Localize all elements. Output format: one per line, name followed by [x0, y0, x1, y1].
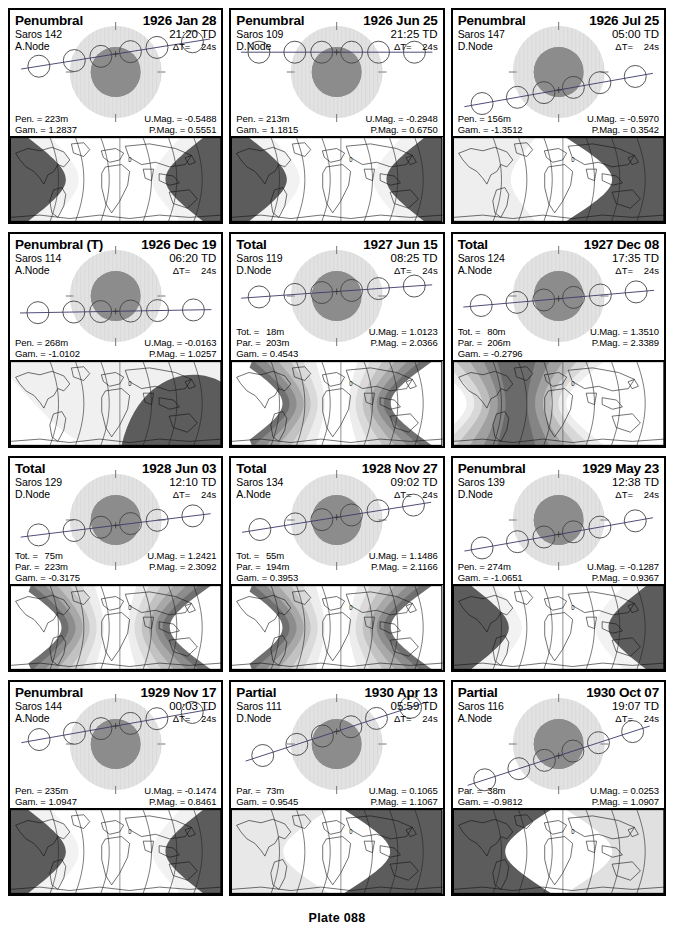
umbral-magnitude: 1.2421: [188, 550, 216, 561]
eclipse-statistics: Pen. = 268mGam. = -1.0102U.Mag. = -0.016…: [10, 337, 221, 359]
penumbral-duration-row: Pen. = 274m: [458, 561, 523, 572]
eclipse-panel[interactable]: TotalSaros 134A.Node1928 Nov 2709:02 TDΔ…: [229, 456, 444, 672]
eclipse-date: 1928 Jun 03: [142, 462, 216, 476]
eclipse-panel[interactable]: PenumbralSaros 147D.Node1926 Jul 2505:00…: [451, 8, 666, 224]
duration-stats: Pen. = 274mGam. = -1.0651: [458, 561, 523, 583]
gam-label: Gam. =: [458, 348, 489, 359]
umbral-magnitude-row: U.Mag. = -0.1474: [144, 785, 216, 796]
eclipse-statistics: Pen. = 235mGam. = 1.0947U.Mag. = -0.1474…: [10, 785, 221, 807]
eclipse-date: 1926 Dec 19: [141, 238, 216, 252]
eclipse-panel[interactable]: TotalSaros 124A.Node1927 Dec 0817:35 TDΔ…: [451, 232, 666, 448]
eclipse-diagram-area: TotalSaros 129D.Node1928 Jun 0312:10 TDΔ…: [10, 458, 221, 584]
eclipse-panel[interactable]: PenumbralSaros 139D.Node1929 May 2312:38…: [451, 456, 666, 672]
gamma-value-row: Gam. = 0.9545: [236, 796, 298, 807]
saros-series: Saros 129: [15, 476, 62, 488]
penumbral-magnitude-row: P.Mag. = 2.3092: [149, 561, 216, 572]
penumbral-magnitude: 0.5551: [188, 124, 216, 135]
penumbral-duration-row: Pen. = 156m: [458, 113, 523, 124]
eclipse-panel[interactable]: PenumbralSaros 109D.Node1926 Jun 2521:25…: [229, 8, 444, 224]
eclipse-panel[interactable]: PartialSaros 111D.Node1930 Apr 1305:59 T…: [229, 680, 444, 896]
par-label: Par. =: [236, 785, 263, 796]
delta-t-label: ΔT=: [615, 489, 633, 500]
eclipse-panel[interactable]: PenumbralSaros 144A.Node1929 Nov 1700:03…: [8, 680, 223, 896]
eclipse-panel[interactable]: TotalSaros 119D.Node1927 Jun 1508:25 TDΔ…: [229, 232, 444, 448]
partial-duration-row: Par. = 194m: [236, 561, 298, 572]
umag-label: U.Mag. =: [587, 113, 625, 124]
delta-t-value: ΔT=24s: [615, 41, 659, 53]
panel-header: PenumbralSaros 109D.Node1926 Jun 2521:25…: [236, 14, 437, 53]
greatest-eclipse-time: 05:00 TD: [612, 28, 659, 41]
saros-series: Saros 144: [15, 700, 83, 712]
delta-t-value: ΔT=24s: [615, 489, 659, 501]
par-label: Par. =: [236, 337, 263, 348]
penumbral-duration-row: Pen. = 213m: [236, 113, 298, 124]
svg-text:0: 0: [350, 604, 354, 611]
gamma-value-row: Gam. = 0.4543: [236, 348, 298, 359]
eclipse-date: 1927 Jun 15: [363, 238, 437, 252]
umag-label: U.Mag. =: [590, 326, 628, 337]
gam-label: Gam. =: [15, 348, 46, 359]
eclipse-type: Total: [458, 238, 505, 252]
panel-header-right: 1928 Jun 0312:10 TDΔT=24s: [142, 462, 216, 501]
pen-label: Pen. =: [458, 561, 485, 572]
eclipse-date: 1926 Jul 25: [589, 14, 659, 28]
eclipse-panel[interactable]: Penumbral (T)Saros 114A.Node1926 Dec 190…: [8, 232, 223, 448]
delta-t-label: ΔT=: [394, 489, 412, 500]
delta-t-label: ΔT=: [173, 713, 191, 724]
penumbral-magnitude-row: P.Mag. = 0.8461: [149, 796, 216, 807]
eclipse-panel[interactable]: PenumbralSaros 142A.Node1926 Jan 2821:20…: [8, 8, 223, 224]
delta-t-seconds: 24s: [633, 713, 659, 725]
panel-header-right: 1927 Dec 0817:35 TDΔT=24s: [584, 238, 659, 277]
penumbral-magnitude: 0.6750: [409, 124, 437, 135]
eclipse-statistics: Par. = 73mGam. = 0.9545U.Mag. = 0.1065P.…: [231, 785, 442, 807]
greatest-eclipse-time: 17:35 TD: [612, 252, 659, 265]
total-duration: 75m: [45, 550, 63, 561]
penumbral-magnitude: 2.0366: [409, 337, 437, 348]
panel-header-left: PartialSaros 116A.Node: [458, 686, 504, 724]
magnitude-stats: U.Mag. = 0.1065P.Mag. = 1.1067: [369, 785, 438, 807]
panel-header-left: PartialSaros 111D.Node: [236, 686, 281, 724]
delta-t-label: ΔT=: [173, 489, 191, 500]
umag-label: U.Mag. =: [369, 326, 407, 337]
visibility-world-map: 0: [231, 136, 442, 222]
panel-header-left: PenumbralSaros 142A.Node: [15, 14, 83, 52]
delta-t-value: ΔT=24s: [173, 41, 217, 53]
delta-t-seconds: 24s: [412, 713, 438, 725]
penumbral-magnitude-row: P.Mag. = 2.1166: [371, 561, 438, 572]
penumbral-magnitude-row: P.Mag. = 0.3542: [592, 124, 659, 135]
gamma-value-row: Gam. = -1.0651: [458, 572, 523, 583]
eclipse-statistics: Pen. = 156mGam. = -1.3512U.Mag. = -0.597…: [453, 113, 664, 135]
penumbral-duration-row: Pen. = 235m: [15, 785, 77, 796]
duration-stats: Tot. = 55mPar. = 194mGam. = 0.3953: [236, 550, 298, 583]
delta-t-label: ΔT=: [615, 713, 633, 724]
eclipse-date: 1930 Apr 13: [365, 686, 438, 700]
greatest-eclipse-time: 21:20 TD: [169, 28, 216, 41]
delta-t-label: ΔT=: [394, 265, 412, 276]
total-duration-row: Tot. = 55m: [236, 550, 298, 561]
svg-text:0: 0: [128, 604, 132, 611]
umag-label: U.Mag. =: [144, 337, 182, 348]
eclipse-panel[interactable]: PartialSaros 116A.Node1930 Oct 0719:07 T…: [451, 680, 666, 896]
duration-stats: Tot. = 80mPar. = 206mGam. = -0.2796: [458, 326, 523, 359]
panel-header-left: PenumbralSaros 139D.Node: [458, 462, 526, 500]
delta-t-value: ΔT=24s: [394, 489, 438, 501]
eclipse-diagram-area: PenumbralSaros 109D.Node1926 Jun 2521:25…: [231, 10, 442, 136]
magnitude-stats: U.Mag. = 0.0253P.Mag. = 1.0907: [590, 785, 659, 807]
visibility-world-map: 0: [10, 584, 221, 670]
eclipse-date: 1926 Jun 25: [363, 14, 437, 28]
plate-label: Plate 088: [0, 911, 674, 925]
panel-header: PartialSaros 116A.Node1930 Oct 0719:07 T…: [458, 686, 659, 725]
eclipse-panel[interactable]: TotalSaros 129D.Node1928 Jun 0312:10 TDΔ…: [8, 456, 223, 672]
magnitude-stats: U.Mag. = 1.3510P.Mag. = 2.3389: [590, 326, 659, 359]
eclipse-date: 1928 Nov 27: [362, 462, 438, 476]
panel-header: PenumbralSaros 147D.Node1926 Jul 2505:00…: [458, 14, 659, 53]
magnitude-stats: U.Mag. = -0.5488P.Mag. = 0.5551: [144, 113, 216, 135]
umbral-magnitude-row: U.Mag. = 0.1065: [369, 785, 438, 796]
visibility-world-map: 0: [231, 808, 442, 894]
pmag-label: P.Mag. =: [592, 796, 628, 807]
gam-label: Gam. =: [15, 572, 46, 583]
duration-stats: Pen. = 235mGam. = 1.0947: [15, 785, 77, 807]
gam-label: Gam. =: [236, 124, 267, 135]
greatest-eclipse-time: 21:25 TD: [391, 28, 438, 41]
magnitude-stats: U.Mag. = 1.2421P.Mag. = 2.3092: [147, 550, 216, 583]
